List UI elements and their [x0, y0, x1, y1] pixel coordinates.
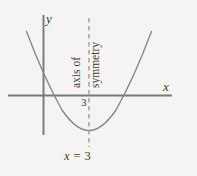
x-axis-label: x [163, 80, 169, 93]
annotation-symmetry: symmetry [90, 42, 102, 88]
y-axis-label: y [46, 12, 52, 25]
equation-label: x = 3 [64, 150, 91, 163]
equation-value: = 3 [70, 149, 91, 163]
x-tick-label-3: 3 [81, 97, 87, 108]
annotation-axis-of: axis of [71, 57, 83, 88]
parabola-figure: y x 3 axis of symmetry x = 3 [0, 0, 197, 176]
